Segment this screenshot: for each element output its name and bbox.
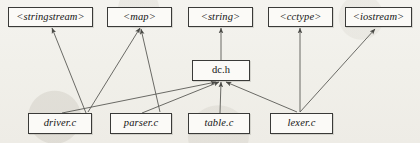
node-label: <cctype>: [280, 11, 322, 22]
edge-parserc-to-dch: [142, 82, 219, 113]
node-cctype[interactable]: <cctype>: [268, 7, 333, 27]
node-label: <stringstream>: [16, 11, 84, 22]
node-label: lexer.c: [288, 118, 316, 129]
node-label: parser.c: [124, 118, 158, 129]
node-label: driver.c: [44, 118, 77, 129]
edge-parserc-to-map: [141, 29, 160, 112]
node-label: <iostream>: [353, 11, 405, 22]
node-label: <string>: [201, 11, 240, 22]
node-iostream[interactable]: <iostream>: [345, 7, 412, 27]
edge-driverc-to-map: [88, 28, 140, 112]
node-table-c[interactable]: table.c: [188, 113, 250, 134]
include-dependency-diagram: <stringstream> <map> <string> <cctype> <…: [0, 0, 420, 143]
node-map[interactable]: <map>: [107, 7, 172, 27]
edge-lexerc-to-dch: [226, 82, 297, 112]
node-parser-c[interactable]: parser.c: [110, 113, 172, 134]
node-lexer-c[interactable]: lexer.c: [270, 113, 333, 134]
node-label: table.c: [205, 118, 234, 129]
edge-lexerc-to-iostream: [300, 29, 375, 112]
node-label: <map>: [123, 11, 156, 22]
edge-driverc-to-dch: [62, 82, 216, 113]
edge-tablec-to-dch: [220, 82, 221, 113]
node-driver-c[interactable]: driver.c: [28, 113, 92, 134]
node-string[interactable]: <string>: [188, 7, 253, 27]
edge-driverc-to-stringstream: [52, 28, 86, 113]
node-dc-h[interactable]: dc.h: [192, 60, 250, 81]
node-label: dc.h: [212, 65, 230, 76]
node-stringstream[interactable]: <stringstream>: [8, 7, 93, 27]
